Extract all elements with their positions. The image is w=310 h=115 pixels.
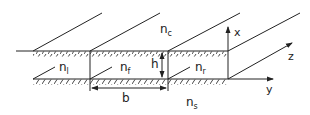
leader-line [90, 67, 112, 79]
label-y-axis: y [266, 83, 273, 96]
leader-line [33, 67, 55, 79]
top-interface-hatch [33, 52, 228, 57]
perspective-line [90, 13, 160, 51]
label-height: h [151, 57, 159, 71]
label-z-axis: z [288, 50, 294, 63]
label-width: b [122, 91, 130, 105]
perspective-line [168, 13, 240, 51]
perspective-line [33, 13, 102, 51]
label-cover: nc [160, 22, 172, 38]
label-film: nf [120, 60, 131, 76]
waveguide-diagram: nc nl nf nr ns h b x y z [0, 0, 310, 115]
leader-line [168, 67, 190, 79]
label-x-axis: x [234, 26, 241, 39]
label-left: nl [59, 60, 69, 76]
bottom-interface-hatch [33, 80, 228, 85]
label-right: nr [195, 60, 207, 76]
z-axis-arrow [228, 43, 292, 79]
label-substrate: ns [186, 95, 198, 111]
